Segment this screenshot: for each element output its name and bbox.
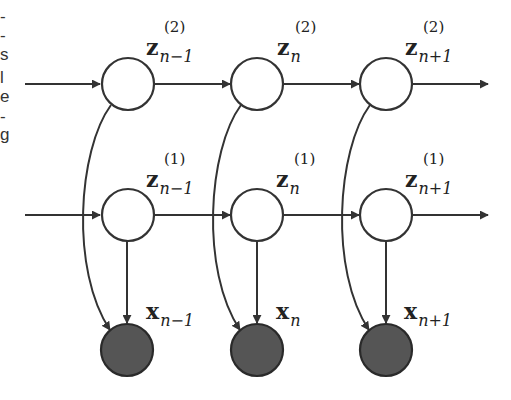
label-superscript: (1) [294, 152, 315, 167]
node-z1-n-plus-1 [360, 189, 412, 241]
label-base: x [146, 298, 159, 324]
label-z2-n-minus-1: z(2)n−1 [146, 36, 192, 58]
node-z2-n-minus-1 [102, 58, 154, 110]
label-superscript: (2) [423, 20, 444, 35]
label-z2-n-plus-1: z(2)n+1 [405, 36, 451, 58]
node-x-n-plus-1 [360, 324, 412, 376]
label-subscript: n−1 [160, 47, 194, 66]
graphical-model-diagram: - - s l e - g [0, 0, 511, 400]
label-x-n: xn [276, 300, 299, 322]
label-subscript: n [290, 311, 300, 330]
label-superscript: (2) [295, 20, 316, 35]
label-base: z [277, 34, 290, 60]
label-superscript: (2) [164, 20, 185, 35]
label-z2-n: z(2)n [277, 36, 300, 58]
label-superscript: (1) [164, 152, 185, 167]
label-subscript: n−1 [160, 311, 194, 330]
label-base: x [404, 298, 417, 324]
node-z2-n [231, 58, 283, 110]
label-subscript: n [290, 179, 300, 198]
node-z1-n [231, 189, 283, 241]
label-base: z [405, 166, 418, 192]
label-base: z [146, 34, 159, 60]
label-subscript: n−1 [160, 179, 194, 198]
node-z1-n-minus-1 [102, 189, 154, 241]
label-base: z [276, 166, 289, 192]
node-x-n [231, 324, 283, 376]
label-subscript: n+1 [419, 179, 453, 198]
label-x-n-minus-1: xn−1 [146, 300, 193, 322]
label-z1-n: z(1)n [276, 168, 299, 190]
label-subscript: n+1 [419, 47, 453, 66]
node-z2-n-plus-1 [360, 58, 412, 110]
node-x-n-minus-1 [101, 324, 153, 376]
label-superscript: (1) [423, 152, 444, 167]
label-subscript: n+1 [418, 311, 452, 330]
label-x-n-plus-1: xn+1 [404, 300, 451, 322]
label-base: z [146, 166, 159, 192]
label-base: x [276, 298, 289, 324]
label-z1-n-plus-1: z(1)n+1 [405, 168, 451, 190]
label-subscript: n [291, 47, 301, 66]
label-z1-n-minus-1: z(1)n−1 [146, 168, 192, 190]
label-base: z [405, 34, 418, 60]
